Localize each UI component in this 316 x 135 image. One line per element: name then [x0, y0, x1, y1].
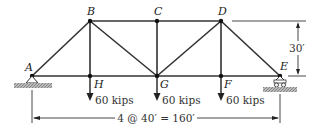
- label-F: F: [223, 78, 232, 91]
- joint-D: [219, 19, 223, 23]
- label-A: A: [24, 61, 33, 74]
- label-D: D: [217, 5, 227, 18]
- joint-C: [155, 19, 159, 23]
- label-H: H: [93, 78, 104, 91]
- label-E: E: [279, 60, 288, 73]
- load-label-F: 60 kips: [226, 94, 265, 106]
- roller-support: [263, 76, 297, 92]
- member-AB: [32, 21, 90, 76]
- ground-hatch-left: [14, 83, 52, 88]
- height-dim-label: 30′: [289, 42, 305, 54]
- truss-diagram: A B C D E H G F 60 kips 60 kips 60 kips …: [0, 0, 316, 135]
- load-label-G: 60 kips: [162, 94, 201, 106]
- label-G: G: [160, 78, 169, 91]
- label-B: B: [86, 5, 95, 18]
- span-dim-label: 4 @ 40′ = 160′: [117, 112, 195, 124]
- truss-members: [32, 21, 280, 76]
- member-DE: [221, 21, 280, 76]
- truss-joints: [30, 19, 282, 78]
- load-label-H: 60 kips: [95, 94, 134, 106]
- joint-B: [88, 19, 92, 23]
- member-BG: [90, 21, 157, 76]
- ground-hatch-right: [263, 87, 297, 92]
- label-C: C: [154, 5, 163, 18]
- pin-support: [14, 76, 52, 88]
- member-DG: [157, 21, 221, 76]
